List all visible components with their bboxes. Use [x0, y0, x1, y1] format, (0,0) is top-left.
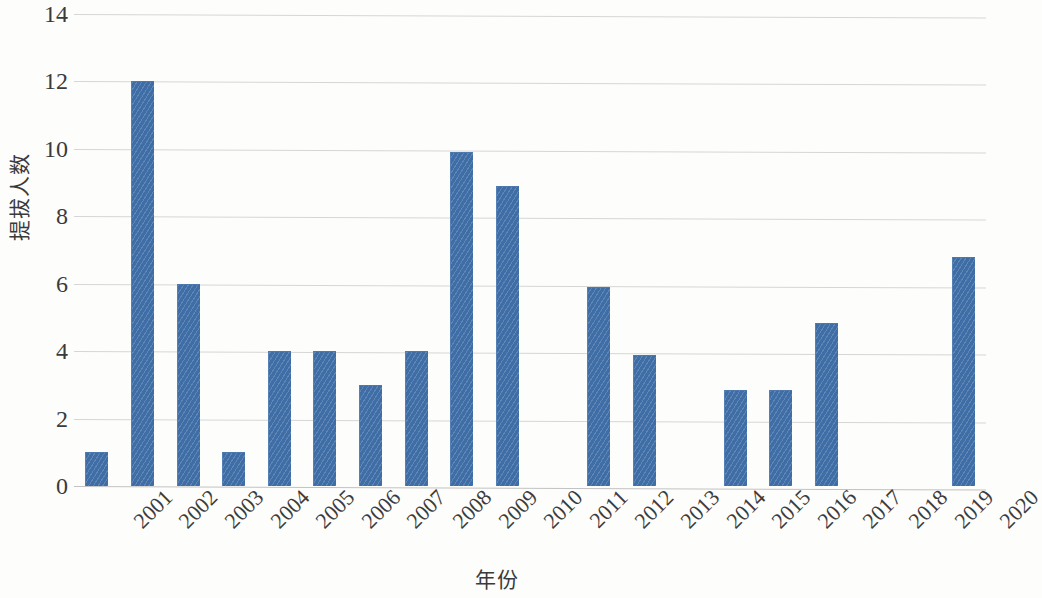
x-axis-tick-label: 2002 [175, 486, 222, 533]
x-axis-tick-label: 2017 [859, 486, 906, 533]
bar [815, 323, 838, 487]
plot-area [74, 14, 986, 486]
x-axis-tick-label: 2013 [677, 486, 724, 533]
x-axis-tick-label: 2020 [996, 486, 1042, 533]
bar [177, 284, 200, 486]
x-axis-tick-label: 2009 [494, 486, 541, 533]
x-axis-tick-label: 2010 [540, 486, 587, 533]
y-axis-tick-label: 14 [24, 2, 68, 26]
bar [724, 390, 747, 486]
bar [633, 355, 656, 486]
x-axis-tick-label: 2015 [768, 486, 815, 533]
bars-layer [74, 14, 986, 486]
bar [313, 351, 336, 486]
bar [769, 390, 792, 486]
bar [85, 452, 108, 486]
bar [268, 351, 291, 486]
x-axis-tick-label: 2011 [585, 486, 631, 532]
x-axis-tick-label: 2008 [449, 486, 496, 533]
y-axis-tick-label: 0 [24, 474, 68, 498]
bar [587, 287, 610, 486]
x-axis-tick-label: 2014 [722, 486, 769, 533]
bar [952, 257, 975, 486]
y-axis-tick-labels: 02468101214 [24, 0, 68, 598]
bar [222, 452, 245, 486]
bar [131, 81, 154, 486]
x-axis-tick-label: 2018 [905, 486, 952, 533]
x-axis-tick-label: 2006 [358, 486, 405, 533]
y-axis-tick-label: 4 [24, 339, 68, 363]
bar [359, 385, 382, 486]
y-axis-tick-label: 10 [24, 137, 68, 161]
bar [450, 152, 473, 486]
bar [496, 186, 519, 486]
x-axis-tick-label: 2004 [266, 486, 313, 533]
x-axis-title: 年份 [0, 563, 993, 593]
y-axis-tick-label: 8 [24, 204, 68, 228]
x-axis-tick-labels: 2001200220032004200520062007200820092010… [74, 486, 986, 556]
y-axis-tick-label: 2 [24, 407, 68, 431]
x-axis-tick-label: 2003 [221, 486, 268, 533]
x-axis-tick-label: 2007 [403, 486, 450, 533]
x-axis-tick-label: 2019 [950, 486, 997, 533]
x-axis-tick-label: 2005 [312, 486, 359, 533]
x-axis-tick-label: 2012 [631, 486, 678, 533]
bar [405, 351, 428, 486]
x-axis-tick-label: 2016 [814, 486, 861, 533]
y-axis-tick-label: 12 [24, 69, 68, 93]
x-axis-tick-label: 2001 [130, 486, 177, 533]
y-axis-tick-label: 6 [24, 272, 68, 296]
